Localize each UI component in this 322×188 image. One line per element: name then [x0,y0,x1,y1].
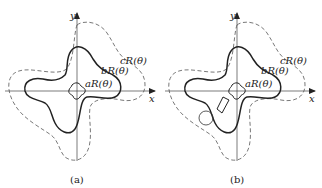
obstacle-circle [199,111,213,125]
label-aR: aR(θ) [245,78,272,89]
caption-a: (a) [70,174,84,185]
label-aR: aR(θ) [85,78,112,89]
y-axis-label: y [69,10,76,21]
label-bR: bR(θ) [101,65,129,76]
obstacle-quadrilateral [217,97,229,113]
y-axis-label: y [229,10,236,21]
x-axis-label: x [149,93,155,104]
label-bR: bR(θ) [261,65,289,76]
panel-a: y x cR(θ) bR(θ) aR(θ) [5,10,155,161]
caption-b: (b) [230,174,244,185]
curve-bR [25,47,121,133]
figure: y x cR(θ) bR(θ) aR(θ) (a) y x cR(θ) bR(θ… [0,0,322,188]
panel-b: y x cR(θ) bR(θ) aR(θ) [165,10,315,161]
x-axis-label: x [309,93,315,104]
